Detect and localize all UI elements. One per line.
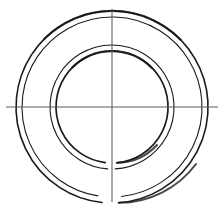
speck-left-upper bbox=[16, 98, 17, 99]
speck-left-mid bbox=[51, 102, 52, 103]
concentric-rings-diagram bbox=[0, 0, 223, 211]
technical-drawing-canvas bbox=[0, 0, 223, 211]
